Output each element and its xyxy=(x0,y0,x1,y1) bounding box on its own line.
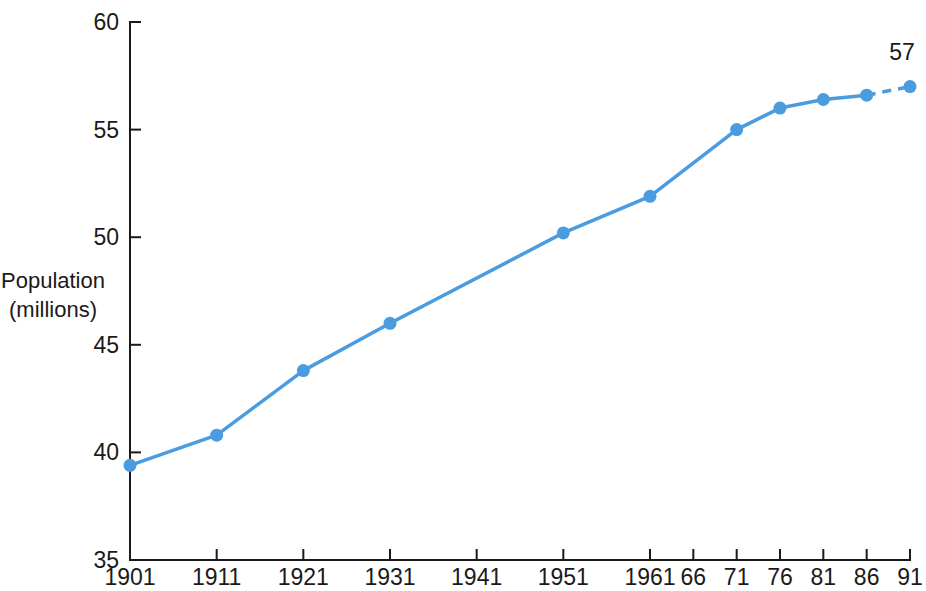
x-tick-label: 1951 xyxy=(538,564,589,590)
x-tick-label: 1961 xyxy=(624,564,675,590)
data-point-marker[interactable] xyxy=(210,429,223,442)
data-line-solid xyxy=(130,95,867,465)
x-tick-label: 81 xyxy=(811,564,837,590)
y-axis-title-line2: (millions) xyxy=(9,297,97,322)
data-point-marker[interactable] xyxy=(124,459,137,472)
x-tick-label: 71 xyxy=(724,564,750,590)
x-tick-label: 1901 xyxy=(104,564,155,590)
x-tick-label: 1921 xyxy=(278,564,329,590)
x-axis-group: 1901191119211931194119511961667176818691 xyxy=(104,549,922,590)
data-point-marker[interactable] xyxy=(730,123,743,136)
final-value-label: 57 xyxy=(889,39,915,65)
y-axis-title-line1: Population xyxy=(1,268,105,293)
data-point-marker[interactable] xyxy=(817,93,830,106)
data-point-marker[interactable] xyxy=(384,317,397,330)
x-tick-label: 86 xyxy=(854,564,880,590)
data-point-marker[interactable] xyxy=(904,80,917,93)
data-point-marker[interactable] xyxy=(297,364,310,377)
x-axis-ticks: 1901191119211931194119511961667176818691 xyxy=(104,549,922,590)
y-tick-label: 45 xyxy=(93,332,119,358)
annotation-group: 57 xyxy=(889,39,915,65)
data-point-marker[interactable] xyxy=(557,226,570,239)
y-tick-label: 55 xyxy=(93,117,119,143)
chart-canvas: 354045505560 190119111921193119411951196… xyxy=(0,0,926,591)
data-series-group xyxy=(124,80,917,472)
data-point-marker[interactable] xyxy=(860,89,873,102)
data-point-marker[interactable] xyxy=(774,102,787,115)
y-tick-label: 50 xyxy=(93,224,119,250)
population-line-chart: 354045505560 190119111921193119411951196… xyxy=(0,0,926,591)
y-axis-title: Population (millions) xyxy=(1,268,105,322)
x-tick-label: 1911 xyxy=(192,564,241,590)
x-tick-label: 66 xyxy=(681,564,707,590)
x-tick-label: 91 xyxy=(897,564,923,590)
x-tick-label: 1941 xyxy=(451,564,502,590)
y-tick-label: 60 xyxy=(93,9,119,35)
x-tick-label: 76 xyxy=(767,564,793,590)
y-tick-label: 40 xyxy=(93,439,119,465)
x-tick-label: 1931 xyxy=(364,564,415,590)
data-line-projected xyxy=(867,87,910,96)
data-point-marker[interactable] xyxy=(644,190,657,203)
